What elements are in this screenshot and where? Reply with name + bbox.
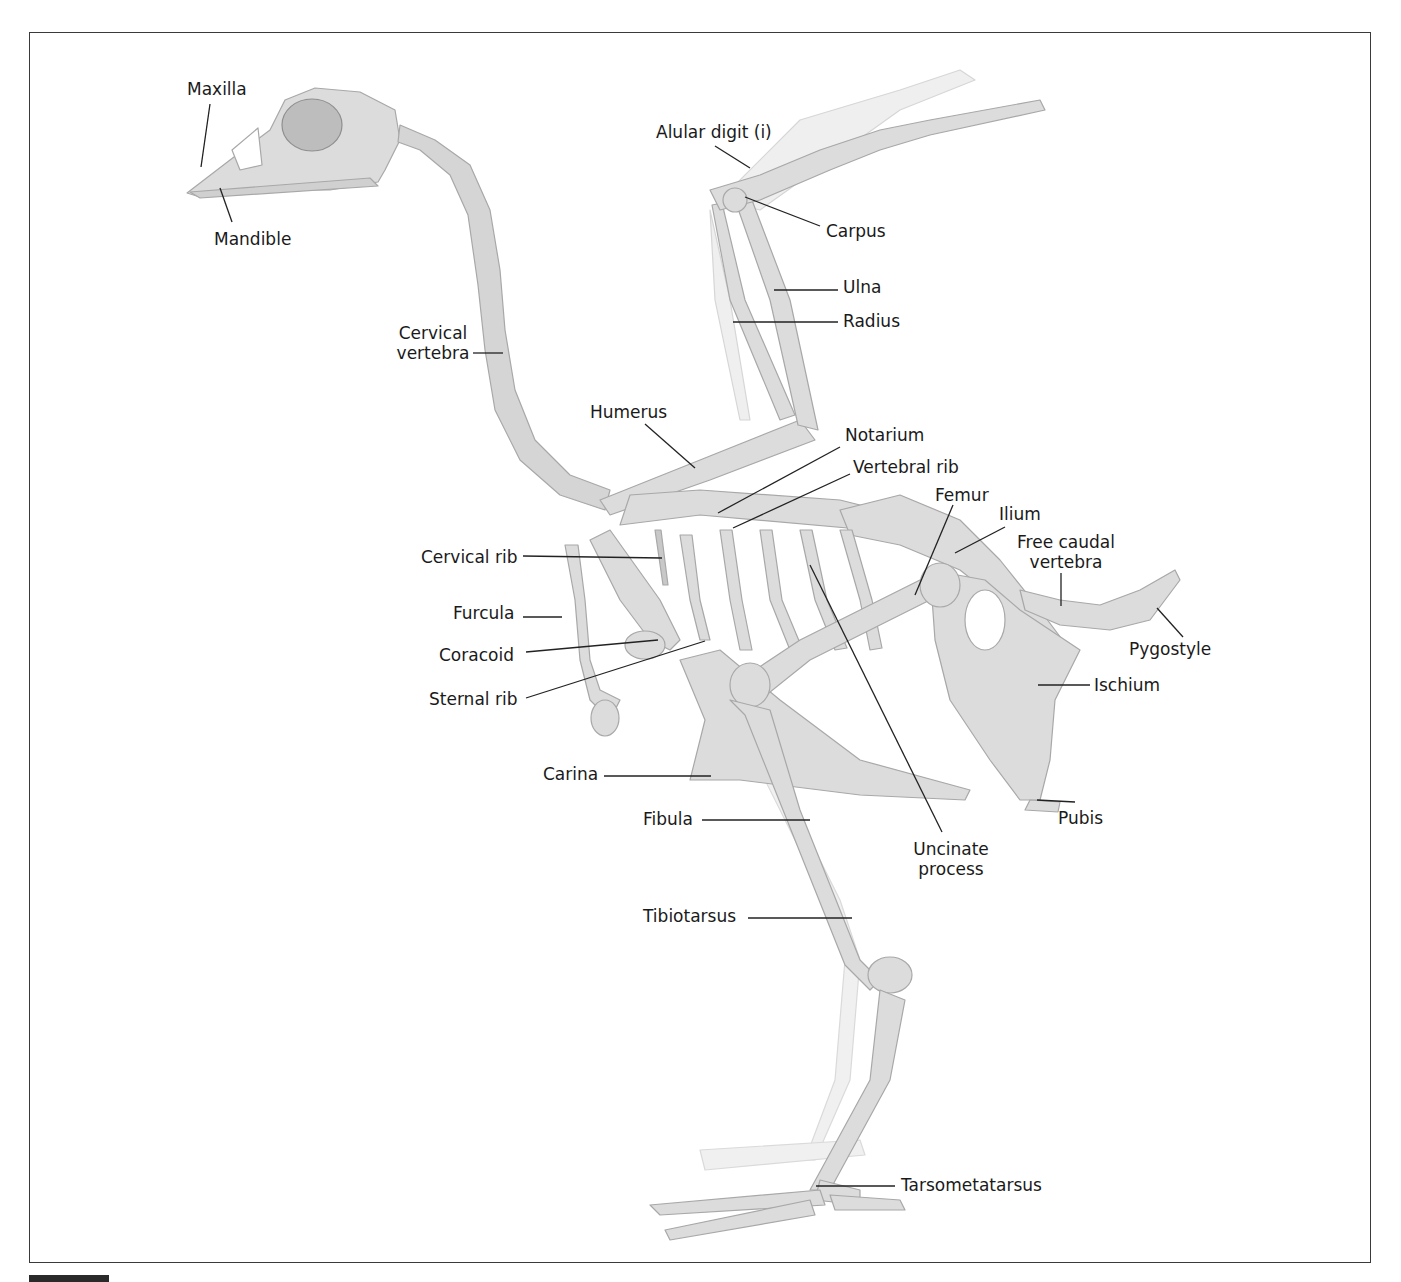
label-sternal-rib: Sternal rib — [429, 689, 517, 709]
label-free-caudal-vertebra: Free caudal vertebra — [1012, 532, 1120, 572]
label-carpus: Carpus — [826, 221, 886, 241]
label-cervical-vertebra: Cervical vertebra — [393, 323, 473, 363]
label-free-caudal-line1: Free caudal — [1012, 532, 1120, 552]
label-radius: Radius — [843, 311, 900, 331]
label-fibula: Fibula — [643, 809, 693, 829]
label-ulna: Ulna — [843, 277, 881, 297]
label-pubis: Pubis — [1058, 808, 1103, 828]
label-tibiotarsus: Tibiotarsus — [643, 906, 736, 926]
label-vertebral-rib: Vertebral rib — [853, 457, 959, 477]
label-humerus: Humerus — [590, 402, 667, 422]
label-cervical-vertebra-line2: vertebra — [393, 343, 473, 363]
label-uncinate-line2: process — [905, 859, 997, 879]
label-coracoid: Coracoid — [439, 645, 514, 665]
skull — [187, 88, 400, 198]
label-cervical-rib: Cervical rib — [421, 547, 518, 567]
label-notarium: Notarium — [845, 425, 924, 445]
label-pygostyle: Pygostyle — [1129, 639, 1211, 659]
cervical-vertebrae — [398, 125, 610, 510]
label-carina: Carina — [543, 764, 598, 784]
label-ischium: Ischium — [1094, 675, 1160, 695]
label-uncinate-line1: Uncinate — [905, 839, 997, 859]
wing — [600, 100, 1045, 515]
ghost-leg — [700, 760, 865, 1170]
label-furcula: Furcula — [453, 603, 515, 623]
label-free-caudal-line2: vertebra — [1012, 552, 1120, 572]
sternum-carina — [680, 650, 970, 800]
label-tarsometatarsus: Tarsometatarsus — [901, 1175, 1042, 1195]
label-maxilla: Maxilla — [187, 79, 247, 99]
label-alular-digit: Alular digit (i) — [656, 122, 772, 142]
label-mandible: Mandible — [214, 229, 291, 249]
label-cervical-vertebra-line1: Cervical — [393, 323, 473, 343]
label-ilium: Ilium — [999, 504, 1041, 524]
label-uncinate-process: Uncinate process — [905, 839, 997, 879]
label-femur: Femur — [935, 485, 989, 505]
